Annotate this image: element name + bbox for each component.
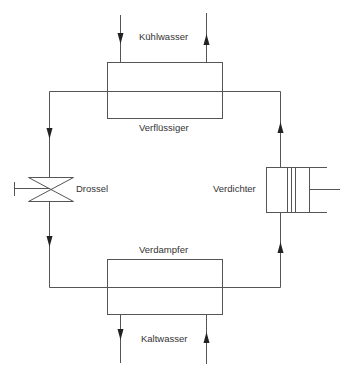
arrow-down-icon <box>118 33 124 44</box>
arrow-up-icon <box>204 34 210 45</box>
arrow-up-icon <box>204 332 210 343</box>
condenser-box <box>108 63 223 119</box>
compressor-icon <box>267 168 341 213</box>
arrow-down-icon <box>47 236 53 247</box>
refrigeration-cycle-diagram <box>0 0 351 374</box>
throttle-valve-icon <box>15 178 74 202</box>
refrigerant-pipe-top <box>50 92 281 178</box>
condenser-label: Verflüssiger <box>139 122 189 133</box>
throttle-label: Drossel <box>76 183 108 194</box>
compressor-label: Verdichter <box>213 183 256 194</box>
arrow-down-icon <box>47 128 53 139</box>
cold-water-label: Kaltwasser <box>141 333 187 344</box>
arrow-up-icon <box>278 242 284 253</box>
arrow-down-icon <box>118 329 124 340</box>
cooling-water-label: Kühlwasser <box>139 31 188 42</box>
arrow-up-icon <box>278 122 284 133</box>
evaporator-label: Verdampfer <box>139 244 188 255</box>
